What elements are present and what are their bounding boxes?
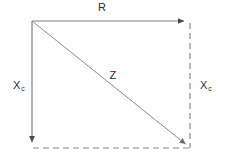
impedance-vector-diagram: R Z Xc Xc xyxy=(0,0,226,167)
resistance-symbol: R xyxy=(98,1,106,13)
reactance-symbol-left: X xyxy=(13,79,21,91)
reactance-subscript-right: c xyxy=(208,85,212,92)
impedance-label: Z xyxy=(109,70,116,81)
resistance-label: R xyxy=(98,2,106,13)
reactance-subscript-left: c xyxy=(21,85,25,92)
impedance-vector-line xyxy=(32,21,186,144)
vector-diagram-canvas xyxy=(0,0,226,167)
reactance-label-right: Xc xyxy=(200,80,211,91)
reactance-label-left: Xc xyxy=(13,80,24,91)
impedance-symbol: Z xyxy=(109,69,116,81)
reactance-symbol-right: X xyxy=(200,79,208,91)
